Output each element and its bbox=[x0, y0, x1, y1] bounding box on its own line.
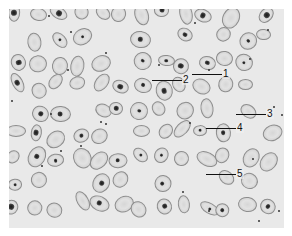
erythrocyte bbox=[131, 9, 151, 27]
erythrocyte bbox=[133, 125, 150, 137]
erythrocyte bbox=[89, 171, 114, 197]
erythrocyte bbox=[9, 9, 20, 22]
debris-dot bbox=[100, 121, 102, 123]
cell-nucleus bbox=[199, 12, 206, 19]
cell-nucleus bbox=[246, 39, 251, 44]
erythrocyte bbox=[190, 75, 214, 97]
cell-nucleus bbox=[37, 110, 45, 118]
erythrocyte bbox=[238, 101, 259, 121]
erythrocyte bbox=[149, 99, 168, 119]
cell-nucleus bbox=[220, 207, 226, 213]
cell-nucleus bbox=[55, 9, 63, 17]
debris-dot bbox=[80, 145, 82, 147]
erythrocyte bbox=[48, 9, 71, 23]
erythrocyte bbox=[47, 153, 66, 169]
erythrocyte bbox=[256, 9, 277, 25]
erythrocyte bbox=[153, 9, 170, 17]
erythrocyte bbox=[177, 9, 194, 26]
debris-dot bbox=[48, 15, 50, 17]
debris-dot bbox=[252, 158, 254, 160]
debris-dot bbox=[281, 114, 283, 116]
erythrocyte bbox=[49, 106, 71, 123]
debris-dot bbox=[278, 210, 280, 212]
cell-nucleus bbox=[116, 159, 121, 164]
erythrocyte bbox=[24, 143, 50, 171]
cell-nucleus bbox=[160, 87, 167, 94]
erythrocyte bbox=[88, 125, 110, 146]
cell-nucleus bbox=[205, 60, 210, 65]
cell-nucleus bbox=[33, 153, 40, 160]
erythrocyte bbox=[9, 148, 22, 166]
callout-line-3 bbox=[236, 114, 266, 115]
cell-nucleus bbox=[164, 59, 168, 63]
cell-nucleus bbox=[221, 130, 226, 135]
callout-label-3: 3 bbox=[266, 109, 274, 119]
callout-label-4: 4 bbox=[236, 123, 244, 133]
erythrocyte bbox=[109, 9, 128, 24]
erythrocyte bbox=[215, 50, 234, 67]
erythrocyte bbox=[51, 56, 69, 76]
cell-nucleus bbox=[158, 9, 164, 13]
cell-nucleus bbox=[138, 37, 143, 42]
erythrocyte bbox=[150, 144, 171, 165]
erythrocyte bbox=[9, 52, 28, 72]
debris-dot bbox=[41, 165, 43, 167]
cell-nucleus bbox=[11, 10, 17, 16]
cell-nucleus bbox=[79, 133, 84, 138]
erythrocyte bbox=[45, 72, 65, 93]
cell-nucleus bbox=[117, 83, 124, 90]
cell-nucleus bbox=[199, 129, 202, 132]
cell-nucleus bbox=[265, 204, 271, 210]
debris-dot bbox=[267, 29, 269, 31]
erythrocyte bbox=[258, 196, 280, 218]
cell-nucleus bbox=[137, 109, 141, 113]
erythrocyte bbox=[231, 50, 256, 75]
erythrocyte bbox=[9, 197, 21, 216]
debris-dot bbox=[11, 100, 13, 102]
debris-dot bbox=[273, 106, 275, 108]
erythrocyte bbox=[87, 193, 112, 215]
erythrocyte bbox=[128, 100, 150, 121]
cell-nucleus bbox=[54, 158, 59, 163]
callout-line-1 bbox=[192, 74, 222, 75]
erythrocyte bbox=[177, 195, 191, 214]
callout-label-2: 2 bbox=[182, 75, 190, 85]
cell-nucleus bbox=[242, 61, 246, 65]
erythrocyte bbox=[26, 32, 43, 52]
erythrocyte bbox=[110, 168, 132, 190]
erythrocyte bbox=[175, 25, 195, 44]
debris-dot bbox=[70, 31, 72, 33]
erythrocyte bbox=[67, 74, 86, 91]
erythrocyte bbox=[108, 153, 128, 169]
erythrocyte bbox=[111, 77, 131, 96]
erythrocyte bbox=[29, 80, 49, 100]
debris-dot bbox=[105, 52, 107, 54]
erythrocyte bbox=[68, 55, 85, 78]
erythrocyte bbox=[29, 103, 52, 125]
debris-dot bbox=[158, 64, 160, 66]
cell-nucleus bbox=[81, 35, 85, 39]
cell-nucleus bbox=[140, 83, 145, 88]
erythrocyte bbox=[9, 125, 26, 136]
erythrocyte bbox=[199, 98, 214, 120]
erythrocyte bbox=[237, 196, 258, 213]
cell-nucleus bbox=[178, 63, 185, 70]
debris-dot bbox=[258, 220, 260, 222]
erythrocyte bbox=[171, 117, 194, 140]
cell-nucleus bbox=[13, 183, 16, 186]
callout-label-5: 5 bbox=[236, 169, 244, 179]
cell-nucleus bbox=[161, 203, 168, 210]
erythrocyte bbox=[129, 29, 152, 49]
erythrocyte bbox=[90, 71, 112, 94]
erythrocyte bbox=[154, 196, 175, 218]
erythrocyte bbox=[28, 168, 50, 190]
erythrocyte bbox=[215, 123, 232, 143]
erythrocyte bbox=[29, 54, 49, 73]
cell-nucleus bbox=[97, 180, 104, 187]
debris-dot bbox=[58, 113, 60, 115]
cell-nucleus bbox=[96, 200, 103, 207]
cell-nucleus bbox=[138, 153, 143, 158]
erythrocyte bbox=[216, 167, 237, 188]
blood-smear-micrograph bbox=[9, 9, 284, 228]
erythrocyte bbox=[72, 9, 89, 21]
